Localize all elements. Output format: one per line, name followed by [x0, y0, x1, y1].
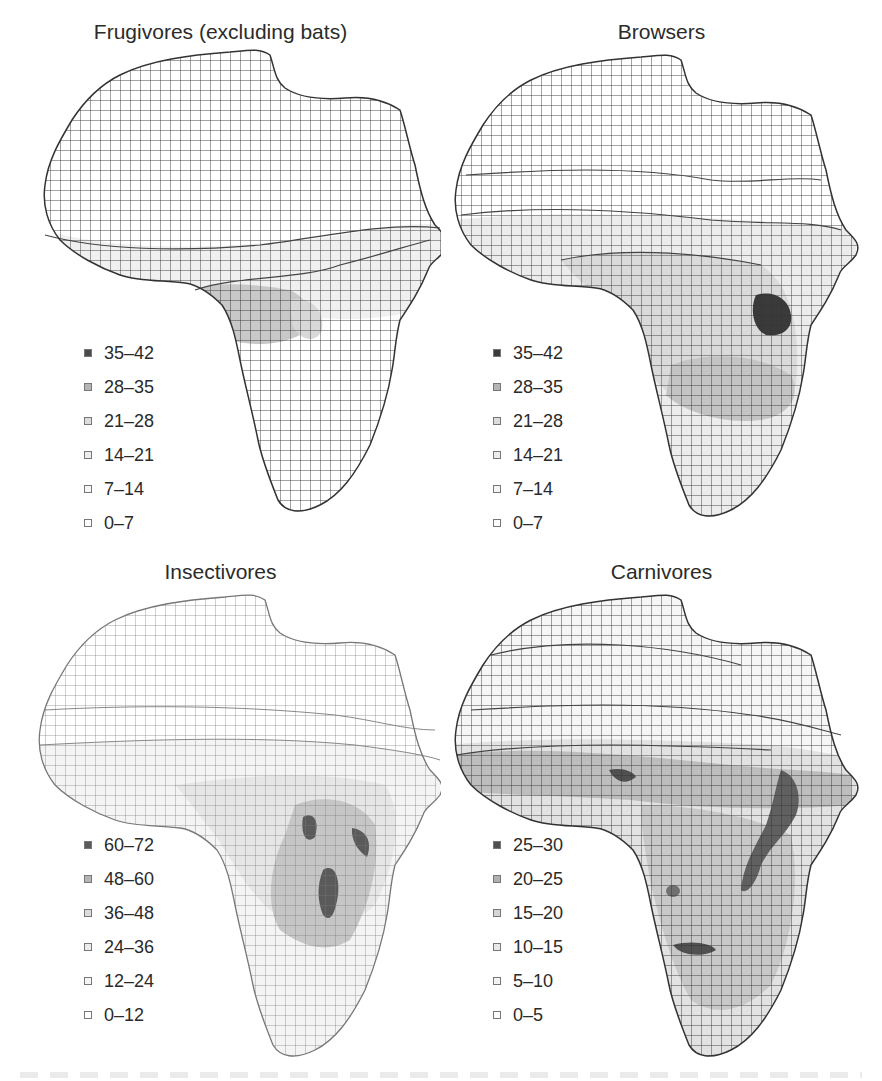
legend-item: 7–14	[84, 472, 154, 506]
legend-swatch	[84, 909, 92, 917]
legend-swatch	[493, 349, 501, 357]
legend-insectivores: 60–72 48–60 36–48 24–36 12–24 0–12	[84, 828, 154, 1032]
panel-browsers: Browsers 35–42 28–35 21–28 14–21 7–14 0–…	[441, 0, 882, 540]
legend-item: 5–10	[493, 964, 563, 998]
legend-carnivores: 25–30 20–25 15–20 10–15 5–10 0–5	[493, 828, 563, 1032]
legend-swatch	[493, 909, 501, 917]
legend-item: 12–24	[84, 964, 154, 998]
legend-item: 0–7	[493, 506, 563, 540]
legend-label: 10–15	[513, 937, 563, 958]
africa-map-insectivores	[0, 540, 441, 1080]
panel-frugivores: Frugivores (excluding bats) 35–42 28–35 …	[0, 0, 441, 540]
legend-label: 0–7	[513, 513, 543, 534]
legend-item: 14–21	[493, 438, 563, 472]
legend-swatch	[84, 451, 92, 459]
legend-item: 0–7	[84, 506, 154, 540]
legend-label: 20–25	[513, 869, 563, 890]
legend-label: 14–21	[513, 445, 563, 466]
legend-item: 10–15	[493, 930, 563, 964]
legend-swatch	[493, 977, 501, 985]
legend-swatch	[493, 1011, 501, 1019]
legend-label: 0–5	[513, 1005, 543, 1026]
legend-swatch	[493, 451, 501, 459]
legend-item: 0–12	[84, 998, 154, 1032]
legend-swatch	[493, 841, 501, 849]
legend-frugivores: 35–42 28–35 21–28 14–21 7–14 0–7	[84, 336, 154, 540]
legend-label: 24–36	[104, 937, 154, 958]
legend-swatch	[84, 943, 92, 951]
legend-label: 28–35	[513, 377, 563, 398]
legend-item: 25–30	[493, 828, 563, 862]
legend-label: 48–60	[104, 869, 154, 890]
legend-swatch	[84, 1011, 92, 1019]
legend-label: 5–10	[513, 971, 553, 992]
legend-label: 0–12	[104, 1005, 144, 1026]
legend-label: 0–7	[104, 513, 134, 534]
legend-browsers: 35–42 28–35 21–28 14–21 7–14 0–7	[493, 336, 563, 540]
legend-swatch	[84, 383, 92, 391]
legend-label: 14–21	[104, 445, 154, 466]
legend-label: 60–72	[104, 835, 154, 856]
cropped-caption	[20, 1072, 862, 1078]
legend-swatch	[84, 349, 92, 357]
legend-item: 48–60	[84, 862, 154, 896]
legend-item: 20–25	[493, 862, 563, 896]
legend-item: 0–5	[493, 998, 563, 1032]
panel-insectivores: Insectivores 60–72 48–60 36–48 24–36 12–…	[0, 540, 441, 1080]
legend-label: 7–14	[513, 479, 553, 500]
legend-item: 36–48	[84, 896, 154, 930]
legend-label: 21–28	[513, 411, 563, 432]
legend-label: 15–20	[513, 903, 563, 924]
legend-label: 25–30	[513, 835, 563, 856]
legend-item: 24–36	[84, 930, 154, 964]
legend-item: 60–72	[84, 828, 154, 862]
legend-swatch	[84, 841, 92, 849]
legend-item: 35–42	[84, 336, 154, 370]
legend-swatch	[84, 875, 92, 883]
legend-item: 14–21	[84, 438, 154, 472]
legend-label: 35–42	[104, 343, 154, 364]
legend-label: 21–28	[104, 411, 154, 432]
legend-item: 28–35	[84, 370, 154, 404]
legend-item: 35–42	[493, 336, 563, 370]
panel-carnivores: Carnivores 25–30 20–25 15–20 10–15 5–10 …	[441, 540, 882, 1080]
legend-swatch	[84, 977, 92, 985]
legend-swatch	[84, 519, 92, 527]
africa-map-frugivores	[0, 0, 441, 540]
legend-label: 7–14	[104, 479, 144, 500]
legend-label: 12–24	[104, 971, 154, 992]
legend-swatch	[493, 875, 501, 883]
legend-item: 15–20	[493, 896, 563, 930]
legend-swatch	[84, 417, 92, 425]
legend-item: 21–28	[84, 404, 154, 438]
legend-label: 36–48	[104, 903, 154, 924]
legend-label: 28–35	[104, 377, 154, 398]
legend-item: 21–28	[493, 404, 563, 438]
legend-label: 35–42	[513, 343, 563, 364]
legend-swatch	[493, 417, 501, 425]
legend-swatch	[493, 519, 501, 527]
legend-swatch	[84, 485, 92, 493]
legend-item: 28–35	[493, 370, 563, 404]
legend-swatch	[493, 485, 501, 493]
legend-swatch	[493, 383, 501, 391]
legend-swatch	[493, 943, 501, 951]
legend-item: 7–14	[493, 472, 563, 506]
